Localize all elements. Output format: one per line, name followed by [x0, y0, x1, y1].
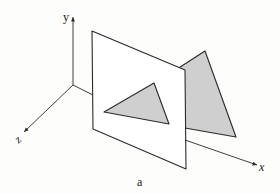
z-axis: [24, 85, 73, 132]
figure-caption: a: [137, 175, 143, 189]
y-axis-label: y: [63, 10, 69, 24]
x-axis-label: x: [258, 160, 265, 174]
z-axis-label: z: [11, 132, 25, 147]
x-axis: [185, 140, 257, 165]
diagram-canvas: y z x a: [0, 0, 280, 193]
x-axis-segment-back: [73, 85, 93, 95]
